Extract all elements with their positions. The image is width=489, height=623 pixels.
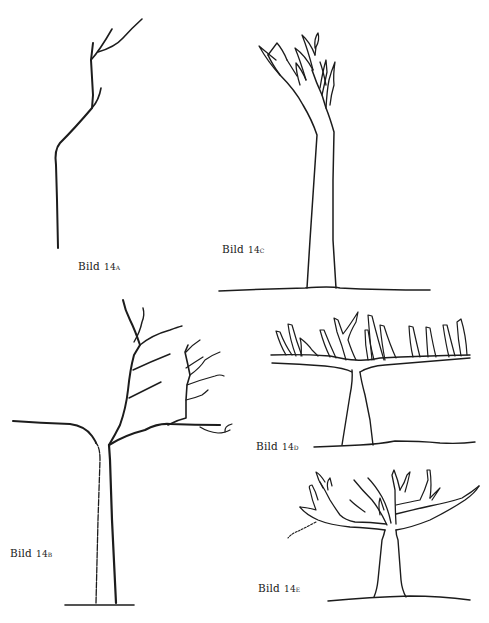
caption-number: 14d [282,442,299,452]
caption-label: Bild [256,440,278,452]
caption-14d: Bild14d [256,440,299,452]
caption-label: Bild [10,547,32,559]
tree-14a-drawing [56,19,143,248]
caption-number: 14a [104,262,120,272]
caption-label: Bild [258,582,280,594]
caption-number: 14c [248,245,265,255]
book-page: Bild14a Bild14c Bild14b Bild14d Bild14e [0,0,489,623]
tree-illustrations [0,0,489,623]
caption-label: Bild [78,260,100,272]
caption-14c: Bild14c [222,243,265,255]
tree-14b-drawing [13,300,232,605]
caption-number: 14e [284,584,300,594]
caption-14b: Bild14b [10,547,52,559]
caption-label: Bild [222,243,244,255]
caption-14e: Bild14e [258,582,300,594]
tree-14e-drawing [288,470,479,601]
tree-14d-drawing [271,312,475,447]
caption-14a: Bild14a [78,260,120,272]
caption-number: 14b [36,549,52,559]
